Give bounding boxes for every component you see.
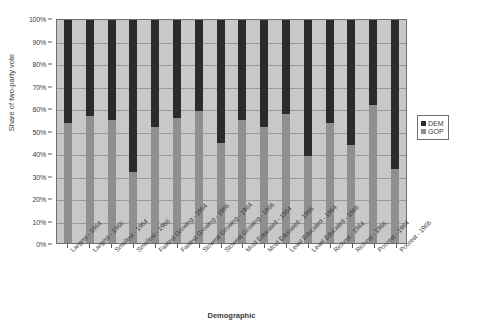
y-axis-tick-label: 30% [33, 173, 46, 180]
x-axis-tick-mark [133, 244, 134, 248]
legend-swatch-icon [421, 121, 426, 126]
stacked-bar[interactable] [129, 20, 137, 243]
bar-segment-dem[interactable] [108, 20, 116, 120]
y-axis-tick-label: 100% [29, 16, 46, 23]
x-axis-tick-mark [396, 244, 397, 248]
x-axis-tick-mark [155, 244, 156, 248]
y-axis-tick-mark [48, 19, 52, 20]
bar-segment-dem[interactable] [195, 20, 203, 111]
y-axis-tick-mark [48, 176, 52, 177]
legend-item[interactable]: DEM [421, 120, 444, 127]
bar-segment-dem[interactable] [238, 20, 246, 120]
y-axis-tick-mark [48, 154, 52, 155]
y-axis-tick-mark [48, 199, 52, 200]
y-axis-tick-label: 40% [33, 151, 46, 158]
stacked-bar[interactable] [108, 20, 116, 243]
y-axis-tick-label: 0% [36, 241, 46, 248]
x-axis-tick-mark [221, 244, 222, 248]
y-axis-tick-label: 70% [33, 83, 46, 90]
bar-segment-dem[interactable] [129, 20, 137, 172]
legend-item[interactable]: GOP [421, 128, 444, 135]
bar-slot [79, 20, 101, 243]
stacked-bar[interactable] [151, 20, 159, 243]
bar-segment-dem[interactable] [282, 20, 290, 114]
bar-slot [57, 20, 79, 243]
bar-slot [166, 20, 188, 243]
bar-segment-dem[interactable] [86, 20, 94, 116]
bar-segment-dem[interactable] [217, 20, 225, 143]
stacked-bar[interactable] [391, 20, 399, 243]
bar-segment-dem[interactable] [64, 20, 72, 123]
bar-segment-gop[interactable] [369, 105, 377, 243]
stacked-bar[interactable] [369, 20, 377, 243]
y-axis-tick-label: 80% [33, 61, 46, 68]
bar-segment-dem[interactable] [304, 20, 312, 156]
legend-label: GOP [428, 128, 444, 135]
x-axis-tick-mark [89, 244, 90, 248]
y-axis-tick-mark [48, 244, 52, 245]
y-axis-tick-label: 90% [33, 38, 46, 45]
x-axis-tick-mark [67, 244, 68, 248]
bar-segment-dem[interactable] [151, 20, 159, 127]
bar-segment-gop[interactable] [64, 123, 72, 243]
bar-segment-dem[interactable] [391, 20, 399, 169]
y-axis-tick-label: 60% [33, 106, 46, 113]
bar-slot [122, 20, 144, 243]
y-axis-tick-label: 50% [33, 128, 46, 135]
bar-segment-dem[interactable] [369, 20, 377, 105]
y-axis-tick-mark [48, 221, 52, 222]
y-axis-tick-label: 20% [33, 196, 46, 203]
bar-segment-dem[interactable] [326, 20, 334, 123]
bar-segment-dem[interactable] [173, 20, 181, 118]
y-axis-tick-label: 10% [33, 218, 46, 225]
x-axis-tick-mark [199, 244, 200, 248]
y-axis-tick-mark [48, 86, 52, 87]
stacked-bar[interactable] [173, 20, 181, 243]
legend-swatch-icon [421, 129, 426, 134]
y-axis-tick-mark [48, 41, 52, 42]
stacked-bar-chart: 0%10%20%30%40%50%60%70%80%90%100% Share … [0, 0, 486, 331]
legend-label: DEM [428, 120, 444, 127]
bar-slot [144, 20, 166, 243]
bar-segment-gop[interactable] [195, 111, 203, 243]
chart-legend: DEMGOP [417, 115, 449, 140]
bar-slot [362, 20, 384, 243]
y-axis-title: Share of two-party vote [7, 28, 16, 158]
bar-segment-gop[interactable] [282, 114, 290, 243]
stacked-bar[interactable] [86, 20, 94, 243]
x-axis-tick-mark [177, 244, 178, 248]
bar-slot [101, 20, 123, 243]
x-axis-tick-mark [352, 244, 353, 248]
bar-slot [384, 20, 406, 243]
bar-segment-dem[interactable] [260, 20, 268, 127]
stacked-bar[interactable] [64, 20, 72, 243]
bar-segment-dem[interactable] [347, 20, 355, 145]
y-axis-tick-mark [48, 64, 52, 65]
x-axis-title: Demographic [56, 311, 407, 320]
y-axis-tick-mark [48, 109, 52, 110]
x-axis-tick-mark [374, 244, 375, 248]
y-axis-tick-mark [48, 131, 52, 132]
x-axis-tick-mark [111, 244, 112, 248]
